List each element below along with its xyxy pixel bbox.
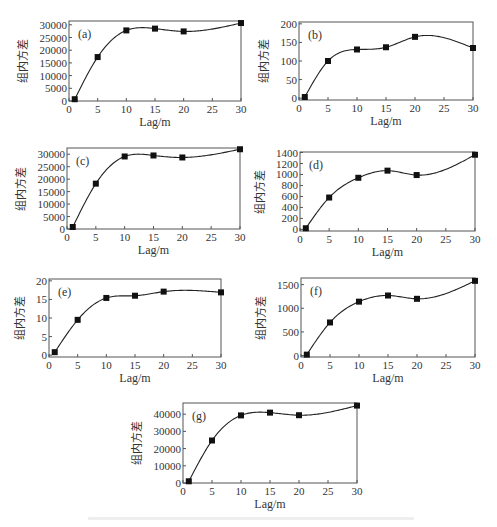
y-tick-label: 20000 bbox=[40, 44, 68, 56]
y-tick-label: 500 bbox=[283, 326, 300, 338]
plot-frame bbox=[301, 278, 475, 357]
y-tick-label: 0 bbox=[62, 95, 68, 107]
x-tick-label: 30 bbox=[470, 233, 482, 245]
series-line bbox=[307, 281, 475, 355]
panel-label: (e) bbox=[58, 285, 71, 299]
y-tick-label: 0 bbox=[294, 350, 300, 362]
panel-label: (d) bbox=[309, 158, 323, 172]
y-tick-label: 20 bbox=[36, 275, 48, 287]
data-point-marker bbox=[179, 154, 185, 160]
figure-caption bbox=[88, 517, 414, 520]
chart-panel-e: 05101520253005101520Lag/m组内方差(e) bbox=[13, 275, 227, 385]
data-point-marker bbox=[412, 34, 418, 40]
x-tick-label: 15 bbox=[150, 103, 162, 115]
x-tick-label: 25 bbox=[439, 102, 451, 114]
data-point-marker bbox=[326, 195, 332, 201]
data-point-marker bbox=[238, 20, 244, 26]
figure-grid: 0510152025300500010000150002000025000300… bbox=[0, 0, 497, 527]
x-tick-label: 5 bbox=[209, 485, 215, 497]
y-tick-label: 0 bbox=[292, 92, 298, 104]
y-tick-label: 25000 bbox=[40, 32, 68, 44]
x-tick-label: 30 bbox=[352, 485, 364, 497]
x-tick-label: 25 bbox=[440, 233, 452, 245]
x-tick-label: 0 bbox=[46, 359, 52, 371]
x-tick-label: 5 bbox=[327, 359, 333, 371]
y-tick-label: 0 bbox=[42, 349, 48, 361]
data-point-marker bbox=[181, 28, 187, 34]
data-point-marker bbox=[70, 224, 76, 230]
y-axis-label: 组内方差 bbox=[257, 39, 270, 83]
data-point-marker bbox=[304, 352, 310, 358]
data-point-marker bbox=[385, 293, 391, 299]
panel-label: (c) bbox=[76, 154, 89, 168]
y-tick-label: 10000 bbox=[154, 460, 182, 472]
data-point-marker bbox=[354, 403, 360, 409]
series-line bbox=[75, 23, 241, 99]
y-tick-label: 1000 bbox=[277, 302, 300, 314]
data-point-marker bbox=[152, 26, 158, 32]
y-tick-label: 40000 bbox=[154, 408, 182, 420]
data-point-marker bbox=[52, 349, 58, 355]
data-point-marker bbox=[186, 478, 192, 484]
data-point-marker bbox=[356, 299, 362, 305]
x-tick-label: 10 bbox=[353, 233, 365, 245]
x-tick-label: 15 bbox=[381, 102, 393, 114]
y-tick-label: 30000 bbox=[38, 148, 66, 160]
y-tick-label: 50 bbox=[286, 74, 298, 86]
y-tick-label: 1400 bbox=[276, 147, 299, 159]
data-point-marker bbox=[325, 58, 331, 64]
x-tick-label: 30 bbox=[236, 103, 248, 115]
y-tick-label: 15 bbox=[36, 293, 48, 305]
y-axis-label: 组内方差 bbox=[254, 296, 267, 340]
y-tick-label: 150 bbox=[281, 36, 298, 48]
x-tick-label: 5 bbox=[95, 103, 101, 115]
y-tick-label: 1000 bbox=[276, 168, 299, 180]
y-tick-label: 0 bbox=[176, 477, 182, 489]
y-tick-label: 600 bbox=[282, 190, 299, 202]
chart-panel-b: 051015202530050100150200Lag/m组内方差(b) bbox=[257, 18, 479, 128]
x-tick-label: 25 bbox=[441, 359, 453, 371]
x-axis-label: Lag/m bbox=[139, 115, 171, 129]
x-tick-label: 20 bbox=[177, 231, 189, 243]
series-line bbox=[73, 149, 240, 227]
data-point-marker bbox=[472, 152, 478, 158]
x-tick-label: 30 bbox=[235, 231, 247, 243]
panel-label: (a) bbox=[78, 27, 91, 41]
chart-panel-c: 0510152025300500010000150002000025000300… bbox=[14, 146, 246, 257]
chart-panel-a: 0510152025300500010000150002000025000300… bbox=[16, 19, 247, 129]
x-tick-label: 10 bbox=[352, 102, 364, 114]
y-tick-label: 20000 bbox=[154, 443, 182, 455]
chart-panel-d: 0510152025300200400600800100012001400Lag… bbox=[253, 147, 481, 259]
y-tick-label: 200 bbox=[281, 18, 298, 30]
data-point-marker bbox=[132, 293, 138, 299]
data-point-marker bbox=[238, 412, 244, 418]
y-tick-label: 5000 bbox=[43, 211, 66, 223]
data-point-marker bbox=[93, 181, 99, 187]
y-tick-label: 30000 bbox=[40, 19, 68, 31]
y-tick-label: 800 bbox=[282, 179, 299, 191]
charts-canvas: 0510152025300500010000150002000025000300… bbox=[0, 0, 497, 527]
y-axis-label: 组内方差 bbox=[13, 296, 26, 340]
data-point-marker bbox=[303, 225, 309, 231]
x-tick-label: 5 bbox=[75, 359, 81, 371]
y-tick-label: 10 bbox=[36, 312, 48, 324]
y-tick-label: 200 bbox=[282, 212, 299, 224]
x-tick-label: 20 bbox=[412, 359, 424, 371]
data-point-marker bbox=[103, 295, 109, 301]
x-tick-label: 5 bbox=[93, 231, 99, 243]
x-axis-label: Lag/m bbox=[254, 497, 286, 511]
y-tick-label: 0 bbox=[60, 223, 66, 235]
chart-panel-f: 051015202530050010001500Lag/m组内方差(f) bbox=[254, 278, 481, 385]
y-tick-label: 10000 bbox=[38, 198, 66, 210]
x-axis-label: Lag/m bbox=[372, 371, 404, 385]
x-tick-label: 0 bbox=[296, 102, 302, 114]
x-tick-label: 20 bbox=[411, 233, 423, 245]
x-axis-label: Lag/m bbox=[372, 245, 404, 259]
y-tick-label: 5 bbox=[42, 331, 48, 343]
x-tick-label: 25 bbox=[187, 359, 199, 371]
y-tick-label: 10000 bbox=[40, 70, 68, 82]
y-tick-label: 1500 bbox=[277, 279, 300, 291]
data-point-marker bbox=[123, 27, 129, 33]
y-tick-label: 25000 bbox=[38, 161, 66, 173]
panel-label: (b) bbox=[308, 28, 322, 42]
